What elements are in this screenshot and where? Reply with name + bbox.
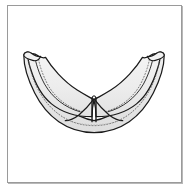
valve-illustration — [8, 6, 181, 182]
screenshot-root — [0, 0, 190, 194]
figure-card — [7, 5, 182, 183]
right-leaflet — [94, 54, 160, 117]
left-leaflet — [28, 54, 94, 117]
